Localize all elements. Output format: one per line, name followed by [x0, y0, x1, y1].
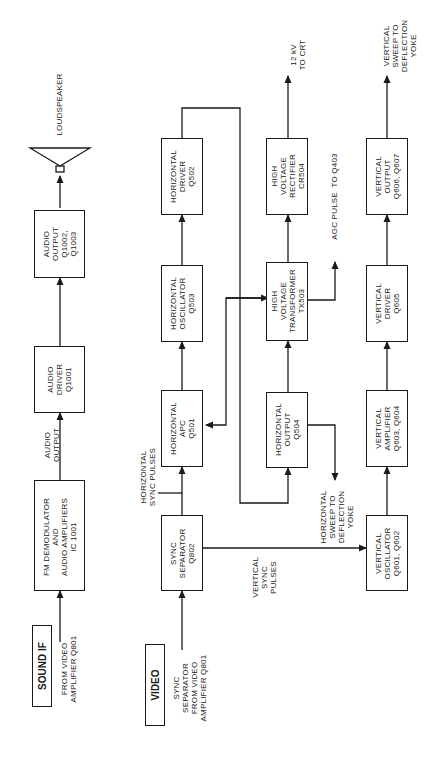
label-12kv-to-crt: 12 kV TO CRT	[289, 37, 307, 73]
block-hv-rectifier-label: HIGH VOLTAGE RECTIFIER CR504	[270, 138, 306, 215]
block-horizontal-oscillator-label: HORIZONTAL OSCILLATOR Q503	[169, 265, 196, 342]
loudspeaker-icon	[30, 148, 90, 172]
block-audio-output-label: AUDIO OUTPUT Q1002, Q1003	[42, 211, 78, 278]
block-audio-driver-label: AUDIO DRIVER Q1001	[46, 346, 73, 413]
label-vertical-sweep: VERTICAL SWEEP TO DEFLECTION YOKE	[382, 18, 418, 74]
label-loudspeaker: LOUDSPEAKER	[55, 70, 64, 140]
label-audio-output: AUDIO OUTPUT	[43, 425, 61, 465]
label-agc-pulse: AGC PULSE TO Q403	[330, 152, 339, 242]
block-sync-separator-label: SYNC SEPARATOR Q802	[169, 516, 196, 592]
block-vertical-amplifier-label: VERTICAL AMPLIFIER Q603, Q604	[374, 390, 401, 467]
label-horizontal-sync-pulses: HORIZONTAL SYNC PULSES	[139, 446, 157, 508]
label-from-video-amp-sound: FROM VIDEO AMPLIFIER Q801	[60, 629, 78, 709]
block-horizontal-driver-label: HORIZONTAL DRIVER Q502	[169, 138, 196, 215]
block-horizontal-output-label: HORIZONTAL OUTPUT Q504	[274, 392, 301, 468]
block-hv-transformer-label: HIGH VOLTAGE TRANSFORMER TX503	[270, 262, 306, 341]
label-sync-from-video-amp: SYNC SEPARATOR FROM VIDEO AMPLIFIER Q801	[172, 648, 208, 728]
block-vertical-output-label: VERTICAL OUTPUT Q606, Q607	[374, 138, 401, 215]
label-vertical-sync-pulses: VERTICAL SYNC PULSES	[251, 558, 278, 598]
video-section-label: VIDEO	[145, 644, 165, 726]
block-fm-demodulator-label: FM DEMODULATOR AND AUDIO AMPLIFIERS IC 1…	[42, 482, 78, 593]
block-vertical-oscillator-label: VERTICAL OSCILLATOR Q601, Q602	[374, 516, 401, 592]
block-vertical-driver-label: VERTICAL DRIVER Q605	[374, 265, 401, 342]
sound-if-section-label: SOUND IF	[32, 625, 52, 707]
label-horizontal-sweep: HORIZONTAL SWEEP TO DEFLECTION YOKE	[319, 488, 355, 546]
block-horizontal-apc-label: HORIZONTAL APC Q501	[169, 390, 196, 467]
